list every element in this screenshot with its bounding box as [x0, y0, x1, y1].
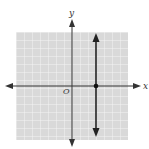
x-axis-right-arrow-icon [133, 83, 141, 89]
y-axis-up-arrow-icon [69, 19, 75, 27]
origin-label: O [63, 87, 70, 96]
x-axis-label: x [143, 81, 148, 91]
coordinate-plane: x y O [0, 0, 149, 149]
y-axis-label: y [68, 8, 75, 18]
y-axis-down-arrow-icon [69, 139, 75, 147]
x-axis-left-arrow-icon [5, 83, 13, 89]
intercept-point [94, 84, 99, 89]
